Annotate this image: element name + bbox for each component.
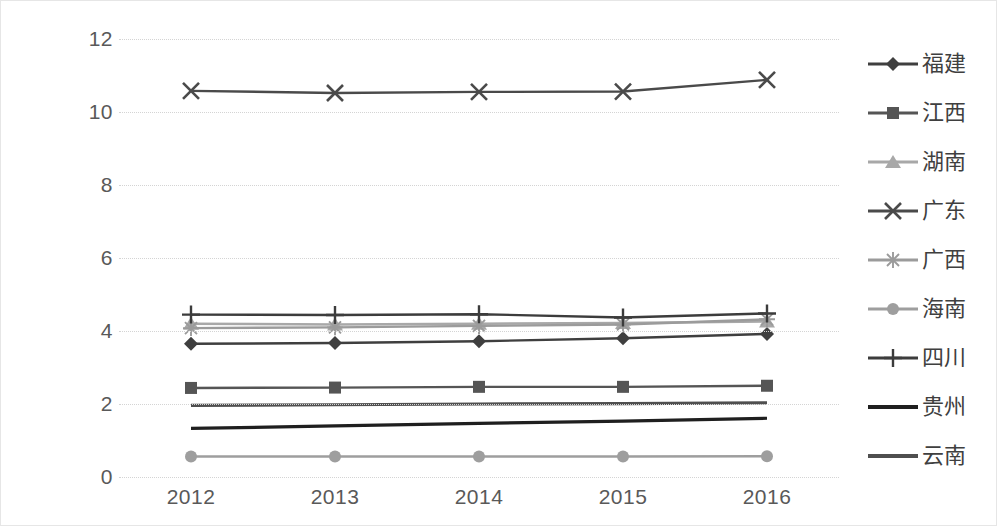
line-chart: 024681012 20122013201420152016 福建江西湖南广东广… [0,0,997,526]
gridline [119,39,839,40]
legend-label: 广西 [922,249,966,271]
plot-area [119,39,839,477]
legend-item-广西[interactable]: 广西 [867,247,966,273]
y-axis-tick-label: 0 [67,465,113,489]
legend-item-湖南[interactable]: 湖南 [867,149,966,175]
legend-label: 广东 [922,200,966,222]
legend-item-广东[interactable]: 广东 [867,198,966,224]
x-axis-tick-label: 2012 [167,485,216,509]
data-point-marker [886,57,900,71]
x-axis-tick-label: 2013 [311,485,360,509]
y-axis-tick-label: 4 [67,319,113,343]
legend-label: 贵州 [922,396,966,418]
legend-item-江西[interactable]: 江西 [867,100,966,126]
y-axis-tick-label: 12 [67,27,113,51]
x-axis-tick-label: 2015 [599,485,648,509]
gridline [119,112,839,113]
legend-label: 湖南 [922,151,966,173]
x-axis-tick-label: 2016 [743,485,792,509]
gridline [119,404,839,405]
data-point-marker [184,337,198,351]
series-海南 [185,450,773,462]
data-point-marker [760,327,774,341]
legend-label: 海南 [922,298,966,320]
data-point-marker [887,303,899,315]
data-point-marker [329,382,341,394]
gridline [119,258,839,259]
series-贵州 [191,418,767,428]
y-axis-tick-label: 6 [67,246,113,270]
legend-item-云南[interactable]: 云南 [867,443,966,469]
series-江西 [185,380,773,394]
data-point-marker [326,306,344,324]
data-point-marker [328,336,342,350]
legend-marker-circle-icon [867,298,919,320]
legend: 福建江西湖南广东广西海南四川贵州云南 [867,51,992,491]
x-axis: 20122013201420152016 [119,483,839,517]
legend-label: 四川 [922,347,966,369]
legend-label: 福建 [922,53,966,75]
data-point-marker [473,381,485,393]
data-point-marker [761,380,773,392]
legend-marker-line-icon [867,396,919,418]
legend-item-四川[interactable]: 四川 [867,345,966,371]
data-point-marker [185,382,197,394]
legend-marker-diamond-icon [867,53,919,75]
legend-marker-square-icon [867,102,919,124]
data-point-marker [329,451,341,463]
gridline [119,185,839,186]
data-point-marker [616,331,630,345]
data-point-marker [887,107,899,119]
gridline [119,331,839,332]
data-point-marker [182,306,200,324]
x-axis-tick-label: 2014 [455,485,504,509]
y-axis-tick-label: 10 [67,100,113,124]
legend-marker-asterisk-icon [867,249,919,271]
data-point-marker [185,451,197,463]
legend-item-海南[interactable]: 海南 [867,296,966,322]
y-axis: 024681012 [63,39,113,477]
data-point-marker [885,252,901,268]
data-point-marker [761,450,773,462]
data-point-marker [473,451,485,463]
legend-marker-plus-icon [867,347,919,369]
series-广东 [183,72,775,101]
gridline [119,477,839,478]
y-axis-tick-label: 2 [67,392,113,416]
data-point-marker [884,349,902,367]
legend-marker-x-icon [867,200,919,222]
legend-marker-line-icon [867,445,919,467]
legend-item-福建[interactable]: 福建 [867,51,966,77]
legend-marker-triangle-icon [867,151,919,173]
data-point-marker [472,334,486,348]
data-point-marker [617,451,629,463]
y-axis-tick-label: 8 [67,173,113,197]
legend-label: 云南 [922,445,966,467]
legend-label: 江西 [922,102,966,124]
data-point-marker [617,381,629,393]
legend-item-贵州[interactable]: 贵州 [867,394,966,420]
